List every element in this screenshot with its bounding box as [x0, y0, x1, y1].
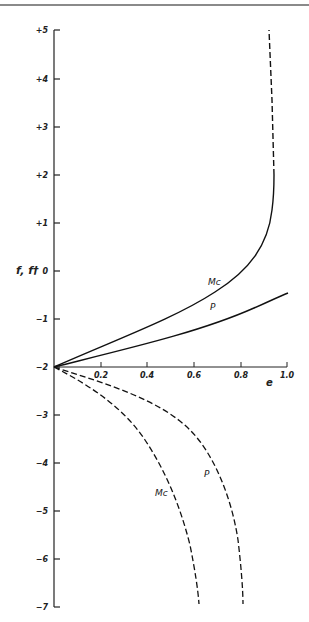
x-tick-label: 1.0 — [280, 371, 295, 380]
y-tick-label: +5 — [36, 26, 49, 35]
p-upper-label: P — [210, 302, 216, 312]
chart: +5 +4 +3 +2 +1 0 −1 −2 −3 −4 −5 −6 −7 f,… — [0, 0, 309, 622]
mc-lower-label: Mc — [155, 488, 168, 498]
x-tick-label: 0.4 — [140, 371, 155, 380]
y-tick-label: +3 — [36, 123, 49, 132]
mc-dashed-upper-curve — [269, 30, 274, 175]
p-lower-label: P — [204, 469, 210, 479]
y-tick-label: −5 — [36, 507, 49, 516]
p-dashed-curve — [54, 367, 243, 604]
mc-upper-label: Mc — [208, 277, 221, 287]
mc-dashed-curve — [54, 367, 199, 604]
y-tick-label: −3 — [36, 411, 49, 420]
y-tick-label: −6 — [36, 555, 49, 564]
y-tick-label: +1 — [36, 219, 48, 228]
y-tick-label: +2 — [36, 171, 49, 180]
y-tick-labels: +5 +4 +3 +2 +1 0 −1 −2 −3 −4 −5 −6 −7 — [36, 26, 49, 612]
x-tick-labels: 0.2 0.4 0.6 0.8 1.0 — [94, 371, 295, 380]
x-tick-label: 0.2 — [94, 371, 109, 380]
y-tick-label: −2 — [36, 363, 49, 372]
y-tick-label: 0 — [42, 267, 48, 276]
x-tick-label: 0.6 — [187, 371, 202, 380]
p-solid-curve — [54, 293, 288, 367]
y-tick-label: −4 — [36, 459, 49, 468]
x-tick-label: 0.8 — [234, 371, 249, 380]
x-axis-label: e — [266, 377, 273, 388]
y-tick-label: −1 — [36, 315, 48, 324]
y-tick-label: −7 — [36, 603, 49, 612]
x-ticks — [101, 362, 287, 367]
y-axis-label: f, f† — [16, 264, 39, 277]
y-ticks — [54, 30, 60, 607]
y-tick-label: +4 — [36, 75, 49, 84]
